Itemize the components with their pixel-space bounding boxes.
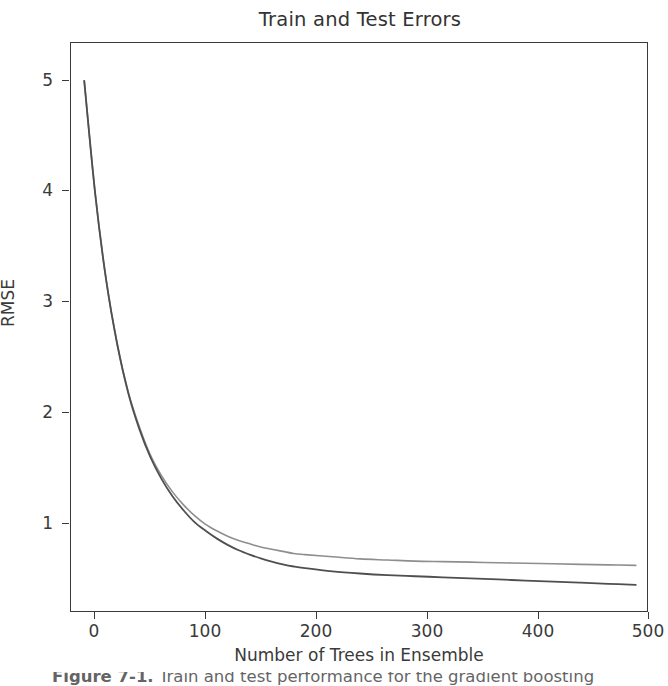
ytick-label-3: 3: [13, 291, 53, 311]
figure-caption: Figure 7-1. Train and test performance f…: [0, 672, 663, 686]
ytick-mark-5: [62, 80, 69, 81]
xtick-mark-0: [94, 612, 95, 619]
ytick-label-4: 4: [13, 180, 53, 200]
xtick-label-400: 400: [508, 621, 568, 641]
series-line-train-error: [84, 81, 636, 585]
plot-area: [70, 42, 648, 612]
ytick-label-2: 2: [13, 402, 53, 422]
ytick-label-1: 1: [13, 513, 53, 533]
xtick-mark-200: [316, 612, 317, 619]
xtick-mark-100: [205, 612, 206, 619]
error-curves-plot: [71, 43, 648, 612]
xtick-label-0: 0: [64, 621, 124, 641]
xtick-mark-400: [538, 612, 539, 619]
ytick-mark-1: [62, 523, 69, 524]
ytick-mark-2: [62, 412, 69, 413]
x-axis-label: Number of Trees in Ensemble: [70, 645, 648, 665]
ytick-mark-3: [62, 301, 69, 302]
xtick-label-200: 200: [286, 621, 346, 641]
ytick-mark-4: [62, 190, 69, 191]
ytick-label-5: 5: [13, 70, 53, 90]
caption-body: Train and test performance for the gradi…: [154, 672, 594, 686]
caption-prefix: Figure 7-1.: [52, 672, 154, 686]
xtick-mark-500: [648, 612, 649, 619]
chart-title: Train and Test Errors: [70, 8, 650, 31]
xtick-mark-300: [427, 612, 428, 619]
xtick-label-500: 500: [618, 621, 668, 641]
xtick-label-300: 300: [397, 621, 457, 641]
y-axis-label: RMSE: [0, 279, 18, 327]
series-line-test-error: [84, 81, 636, 566]
xtick-label-100: 100: [175, 621, 235, 641]
